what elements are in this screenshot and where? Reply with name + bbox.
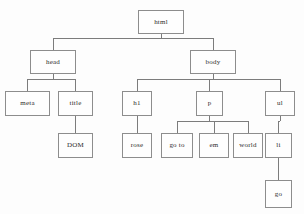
node-body[interactable]: body: [190, 50, 236, 74]
node-label: rose: [131, 142, 143, 149]
node-label: html: [154, 18, 168, 25]
node-label: world: [239, 142, 256, 149]
node-label: title: [70, 100, 82, 107]
node-world[interactable]: world: [233, 133, 263, 158]
node-label: h1: [133, 100, 140, 107]
node-li[interactable]: li: [265, 133, 292, 158]
node-head[interactable]: head: [30, 50, 76, 74]
node-html[interactable]: html: [138, 10, 184, 34]
node-h1[interactable]: h1: [122, 91, 152, 116]
node-label: head: [46, 58, 60, 65]
node-go[interactable]: go: [265, 180, 292, 208]
node-meta[interactable]: meta: [5, 91, 50, 116]
dom-tree-diagram: htmlheadbodymetatitleh1pulDOMrosego toem…: [0, 0, 304, 214]
node-label: go to: [169, 142, 184, 149]
node-label: ul: [277, 100, 283, 107]
node-em[interactable]: em: [199, 133, 229, 158]
node-title[interactable]: title: [58, 91, 93, 116]
node-label: em: [210, 142, 219, 149]
node-label: meta: [20, 100, 34, 107]
node-p[interactable]: p: [196, 91, 223, 116]
node-dom[interactable]: DOM: [58, 133, 93, 158]
node-rose[interactable]: rose: [122, 133, 152, 158]
node-label: p: [208, 100, 212, 107]
node-ul[interactable]: ul: [265, 91, 295, 116]
node-label: body: [206, 58, 221, 65]
node-label: go: [275, 190, 282, 197]
node-label: li: [276, 142, 280, 149]
node-label: DOM: [67, 142, 84, 149]
node-goto[interactable]: go to: [161, 133, 193, 158]
